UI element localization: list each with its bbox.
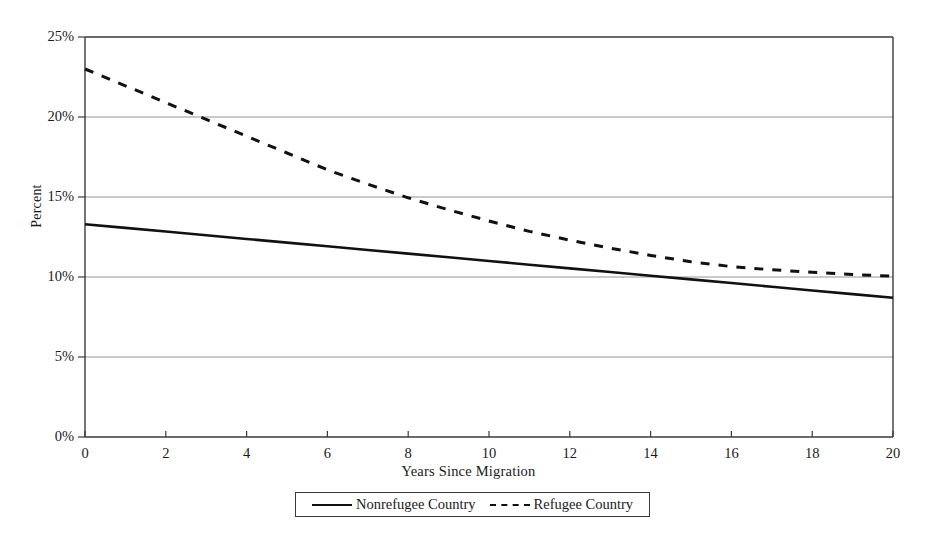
x-tick-label: 0 <box>65 446 105 461</box>
y-tick-label: 10% <box>14 269 74 284</box>
x-tick-label: 14 <box>631 446 671 461</box>
y-tick-label: 25% <box>14 29 74 44</box>
chart-figure: Percent Years Since Migration 0%5%10%15%… <box>0 0 937 538</box>
x-tick-label: 12 <box>550 446 590 461</box>
y-tick-label: 5% <box>14 349 74 364</box>
x-tick-label: 6 <box>307 446 347 461</box>
y-tick-label: 0% <box>14 429 74 444</box>
y-tick-label: 15% <box>14 189 74 204</box>
legend-item-nonrefugee-country: Nonrefugee Country <box>312 496 476 513</box>
axis-ticks <box>78 37 893 437</box>
x-axis-title: Years Since Migration <box>0 463 937 480</box>
legend-label-refugee-country: Refugee Country <box>534 496 633 513</box>
data-line-refugee-country <box>85 69 893 276</box>
x-tick-label: 2 <box>146 446 186 461</box>
x-tick-label: 10 <box>469 446 509 461</box>
x-tick-label: 18 <box>792 446 832 461</box>
solid-line-swatch-icon <box>312 504 352 506</box>
x-tick-label: 20 <box>873 446 913 461</box>
legend-item-refugee-country: Refugee Country <box>490 496 633 513</box>
chart-legend: Nonrefugee Country Refugee Country <box>295 492 650 517</box>
legend-label-nonrefugee-country: Nonrefugee Country <box>356 496 476 513</box>
data-line-nonrefugee-country <box>85 224 893 298</box>
x-tick-label: 16 <box>711 446 751 461</box>
data-series-group <box>85 69 893 298</box>
y-axis-title: Percent <box>29 161 45 251</box>
x-tick-label: 4 <box>227 446 267 461</box>
plot-frame <box>85 37 893 437</box>
gridlines <box>85 117 893 357</box>
y-tick-label: 20% <box>14 109 74 124</box>
dashed-line-swatch-icon <box>490 504 530 506</box>
x-tick-label: 8 <box>388 446 428 461</box>
